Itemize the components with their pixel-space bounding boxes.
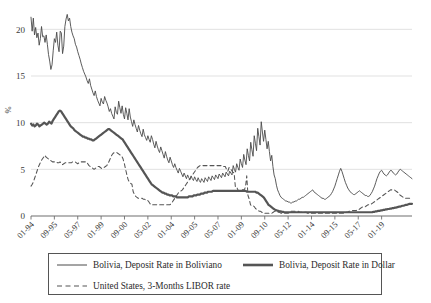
series-line-2 [31,153,412,214]
y-tick-label: 0 [21,211,26,221]
legend-item-boliviano: Bolivia, Deposit Rate in Boliviano [49,260,235,270]
x-tick-label: 05-02 [132,219,153,240]
x-tick-label: 01-19 [365,219,386,240]
x-tick-label: 09-15 [319,219,340,240]
x-tick-label: 09-95 [38,219,59,240]
legend-swatch-solid-thick [241,260,275,270]
legend-item-libor: United States, 3-Months LIBOR rate [49,281,235,291]
series-line-0 [31,14,412,203]
y-tick-label: 20 [16,25,26,35]
series-lines [31,14,412,213]
chart-legend: Bolivia, Deposit Rate in Boliviano Boliv… [48,253,382,295]
x-tick-label: 05-12 [272,219,293,240]
x-tick-label: 05-97 [62,219,83,240]
legend-label-boliviano: Bolivia, Deposit Rate in Boliviano [93,260,222,270]
chart-container: 05101520 01-9409-9505-9701-9909-0005-020… [0,0,431,303]
x-tick-label: 09-10 [249,219,270,240]
x-axis-tick-labels: 01-9409-9505-9701-9909-0005-0201-0409-05… [15,219,387,241]
legend-label-libor: United States, 3-Months LIBOR rate [93,281,230,291]
y-tick-label: 10 [16,118,26,128]
x-tick-label: 01-99 [85,219,106,240]
y-tick-label: 5 [21,165,26,175]
x-tick-label: 05-17 [342,219,363,240]
x-tick-label: 09-05 [178,219,199,240]
series-line-1 [31,111,412,213]
y-tick-label: 15 [16,71,26,81]
x-tick-label: 09-00 [108,219,129,240]
legend-item-dollar: Bolivia, Deposit Rate in Dollar [235,260,383,270]
y-axis-title: % [3,106,13,113]
x-axis [31,216,412,220]
x-tick-label: 01-14 [295,219,317,241]
x-tick-label: 01-94 [15,219,37,241]
x-tick-label: 01-04 [155,219,177,241]
legend-swatch-solid-thin [55,260,89,270]
x-tick-label: 05-07 [202,219,223,240]
x-tick-label: 01-09 [225,219,246,240]
legend-label-dollar: Bolivia, Deposit Rate in Dollar [279,260,395,270]
legend-swatch-dashed [55,281,89,291]
y-axis-tick-labels: 05101520 [16,25,26,222]
gridlines [31,29,412,169]
